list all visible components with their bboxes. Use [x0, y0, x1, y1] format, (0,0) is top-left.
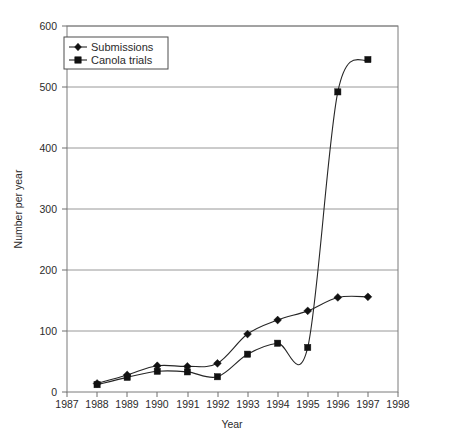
- square-marker: [275, 340, 281, 346]
- square-marker: [75, 57, 81, 63]
- chart-canvas: 600 500 400 300 200 100 0 Number per yea…: [0, 0, 452, 443]
- x-tick-label-1988: 1988: [85, 398, 109, 410]
- y-tick-label-0: 0: [51, 386, 57, 398]
- square-marker: [244, 351, 250, 357]
- x-tick-label-1996: 1996: [326, 398, 350, 410]
- series-line-canola-trials: [97, 59, 368, 384]
- x-tick-label-1995: 1995: [296, 398, 320, 410]
- series-canola-trials: [94, 56, 371, 387]
- x-tick-label-1998: 1998: [386, 398, 410, 410]
- y-axis-tick-labels: 600 500 400 300 200 100 0: [39, 20, 57, 398]
- x-axis-tick-labels: 1987 1988 1989 1990 1991 1992 1993 1994 …: [55, 398, 410, 410]
- square-marker: [365, 56, 371, 62]
- series-line-submissions: [97, 296, 368, 383]
- diamond-marker: [334, 294, 342, 302]
- x-tick-label-1994: 1994: [266, 398, 290, 410]
- y-tick-label-100: 100: [39, 325, 57, 337]
- diamond-marker: [364, 293, 372, 301]
- square-marker: [305, 344, 311, 350]
- diamond-marker: [214, 359, 222, 367]
- legend: Submissions Canola trials: [64, 37, 168, 69]
- y-tick-label-500: 500: [39, 81, 57, 93]
- x-tick-label-1991: 1991: [176, 398, 200, 410]
- x-tick-label-1992: 1992: [206, 398, 230, 410]
- series-markers-canola-trials: [94, 56, 371, 387]
- square-marker: [214, 374, 220, 380]
- x-axis-ticks: [67, 392, 398, 397]
- x-axis-title: Year: [221, 418, 243, 430]
- series-submissions: [93, 293, 372, 387]
- x-tick-label-1997: 1997: [356, 398, 380, 410]
- y-axis-title: Number per year: [12, 169, 24, 248]
- y-tick-label-600: 600: [39, 20, 57, 32]
- series-markers-submissions: [93, 293, 372, 387]
- gridlines: [67, 26, 398, 331]
- x-tick-label-1987: 1987: [55, 398, 79, 410]
- x-tick-label-1990: 1990: [145, 398, 169, 410]
- y-tick-label-300: 300: [39, 203, 57, 215]
- y-axis-ticks: [62, 26, 67, 392]
- x-tick-label-1989: 1989: [115, 398, 139, 410]
- diamond-marker: [274, 316, 282, 324]
- line-chart: 600 500 400 300 200 100 0 Number per yea…: [0, 0, 452, 443]
- y-tick-label-400: 400: [39, 142, 57, 154]
- y-tick-label-200: 200: [39, 264, 57, 276]
- x-tick-label-1993: 1993: [236, 398, 260, 410]
- legend-label-canola-trials: Canola trials: [91, 54, 153, 66]
- legend-label-submissions: Submissions: [91, 41, 154, 53]
- square-marker: [335, 89, 341, 95]
- diamond-marker: [304, 307, 312, 315]
